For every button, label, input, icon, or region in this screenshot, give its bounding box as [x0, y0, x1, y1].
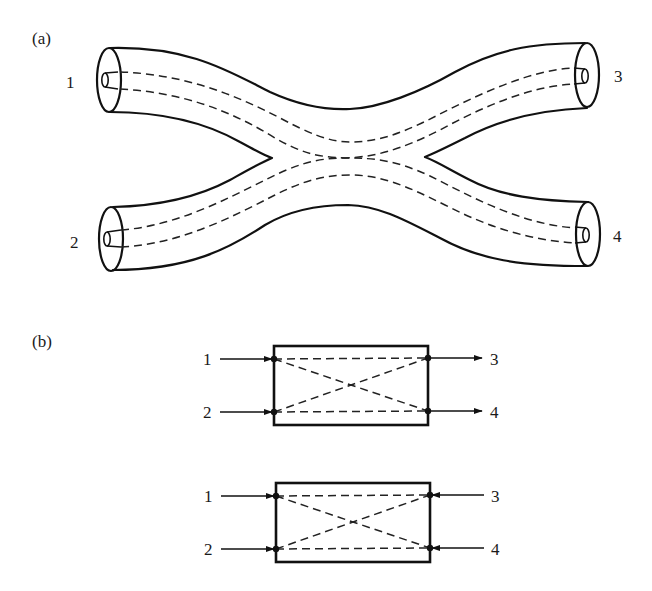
fiber-end-port-3: [574, 43, 599, 107]
port-1-label: 1: [66, 73, 75, 92]
b1-port-3-label: 3: [490, 350, 499, 369]
b2-port-2-label: 2: [204, 540, 213, 559]
panel-b-label: (b): [32, 332, 52, 351]
b1-port-4-label: 4: [490, 403, 499, 422]
fiber-end-port-4: [575, 202, 600, 266]
panel-b: (b) 1 2 3 4: [32, 332, 500, 562]
panel-a: (a): [32, 29, 623, 271]
port-2-label: 2: [70, 233, 79, 252]
fiber-end-port-2: [99, 207, 123, 271]
coupler-block-contradirectional: 1 2 3 4: [204, 483, 500, 562]
port-3-label: 3: [614, 67, 623, 86]
fiber-cores: [120, 68, 575, 247]
b1-port-2-label: 2: [203, 403, 212, 422]
fiber-end-port-1: [97, 48, 121, 112]
b1-port-1-label: 1: [203, 350, 212, 369]
b2-port-1-label: 1: [204, 487, 213, 506]
b2-port-4-label: 4: [491, 540, 500, 559]
fiber-body-outline: [110, 43, 588, 270]
coupler-block-codirectional: 1 2 3 4: [203, 346, 499, 425]
b2-port-3-label: 3: [491, 487, 500, 506]
panel-a-label: (a): [32, 29, 51, 48]
port-4-label: 4: [613, 227, 622, 246]
coupler-figure: (a): [0, 0, 652, 591]
